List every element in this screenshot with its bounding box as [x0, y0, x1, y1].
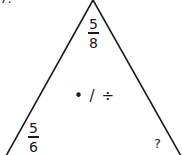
fraction-bar	[88, 32, 99, 34]
top-fraction-numerator: 5	[89, 17, 98, 31]
top-fraction: 5 8	[88, 17, 99, 50]
bottom-left-fraction-denominator: 6	[29, 140, 38, 154]
top-fraction-denominator: 8	[89, 36, 98, 50]
bottom-left-fraction: 5 6	[28, 121, 39, 154]
unknown-value: ?	[154, 137, 161, 151]
bottom-left-fraction-numerator: 5	[29, 121, 38, 135]
operation-symbols: • / ÷	[74, 88, 115, 104]
fraction-bar	[28, 136, 39, 138]
